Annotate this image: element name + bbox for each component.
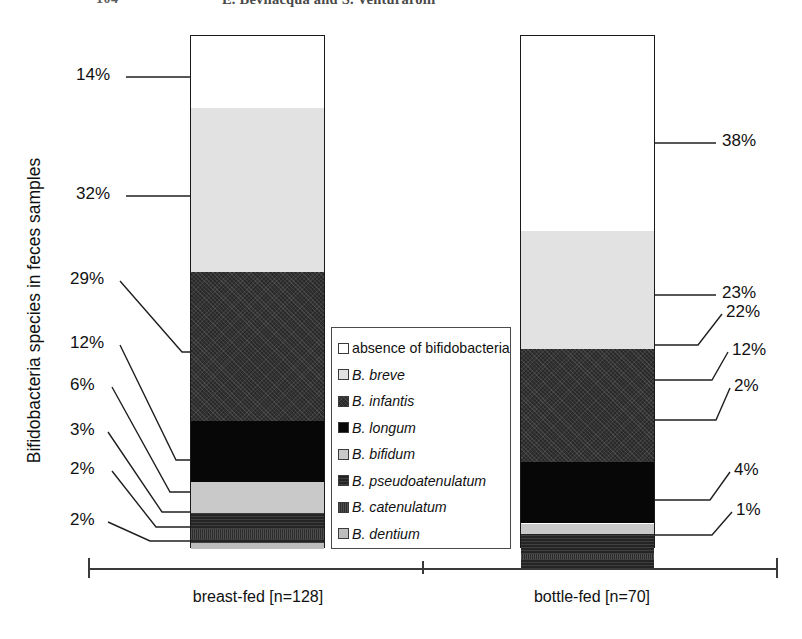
leader-right-catenulatum bbox=[655, 512, 732, 535]
legend-label-breve: B. breve bbox=[352, 367, 405, 383]
legend-item-pseudoatenulatum[interactable]: B. pseudoatenulatum bbox=[338, 468, 510, 495]
plot-area: breast-fed [n=128] bottle-fed [n=70] 14%… bbox=[0, 0, 802, 639]
leader-right-infantis bbox=[655, 314, 722, 345]
legend-item-dentium[interactable]: B. dentium bbox=[338, 521, 510, 548]
legend-item-infantis[interactable]: B. infantis bbox=[338, 388, 510, 415]
value-label-breast-bifidum: 6% bbox=[70, 375, 95, 395]
value-label-breast-breve: 32% bbox=[76, 184, 110, 204]
leader-left-pseudoatenulatum bbox=[108, 432, 190, 512]
value-label-bottle-catenulatum: 1% bbox=[736, 500, 761, 520]
leader-left-catenulatum bbox=[112, 471, 190, 527]
legend-item-absence[interactable]: absence of bifidobacteria bbox=[338, 335, 510, 362]
legend-swatch-breve-icon bbox=[338, 369, 349, 380]
leader-left-infantis bbox=[120, 281, 190, 352]
value-label-bottle-pseudoatenulatum: 4% bbox=[734, 460, 759, 480]
legend-swatch-longum-icon bbox=[338, 422, 349, 433]
value-label-bottle-bifidum: 2% bbox=[734, 376, 759, 396]
value-label-breast-longum: 12% bbox=[70, 333, 104, 353]
value-label-bottle-breve: 23% bbox=[722, 283, 756, 303]
legend-box: absence of bifidobacteria B. breve B. in… bbox=[331, 327, 511, 549]
legend-swatch-absence-icon bbox=[338, 343, 349, 354]
legend-label-pseudoatenulatum: B. pseudoatenulatum bbox=[352, 473, 486, 489]
leader-right-bifidum bbox=[655, 388, 730, 420]
leader-right-longum bbox=[655, 352, 728, 380]
value-label-breast-catenulatum: 2% bbox=[70, 459, 95, 479]
value-label-bottle-longum: 12% bbox=[732, 340, 766, 360]
legend-item-longum[interactable]: B. longum bbox=[338, 415, 510, 442]
legend-label-bifidum: B. bifidum bbox=[352, 446, 415, 462]
value-label-breast-absence: 14% bbox=[76, 65, 110, 85]
leader-right-pseudoatenulatum bbox=[655, 472, 730, 500]
leader-left-bifidum bbox=[112, 387, 190, 492]
legend-label-catenulatum: B. catenulatum bbox=[352, 499, 447, 515]
legend-swatch-catenulatum-icon bbox=[338, 502, 349, 513]
legend-swatch-infantis-icon bbox=[338, 396, 349, 407]
leader-left-dentium bbox=[108, 522, 190, 541]
legend-label-infantis: B. infantis bbox=[352, 393, 414, 409]
value-label-breast-dentium: 2% bbox=[70, 510, 95, 530]
value-label-bottle-infantis: 22% bbox=[726, 302, 760, 322]
legend-item-breve[interactable]: B. breve bbox=[338, 362, 510, 389]
legend-swatch-pseudoatenulatum-icon bbox=[338, 475, 349, 486]
value-label-breast-infantis: 29% bbox=[70, 269, 104, 289]
value-label-breast-pseudoatenulatum: 3% bbox=[70, 420, 95, 440]
legend-item-bifidum[interactable]: B. bifidum bbox=[338, 441, 510, 468]
legend-swatch-bifidum-icon bbox=[338, 449, 349, 460]
legend-label-longum: B. longum bbox=[352, 420, 416, 436]
legend-swatch-dentium-icon bbox=[338, 528, 349, 539]
legend-label-absence: absence of bifidobacteria bbox=[352, 340, 510, 356]
legend-label-dentium: B. dentium bbox=[352, 526, 420, 542]
value-label-bottle-absence: 38% bbox=[722, 131, 756, 151]
leader-left-longum bbox=[120, 345, 190, 460]
figure-root: 104 E. Bevilacqua and S. Venturarolli Bi… bbox=[0, 0, 802, 639]
legend-item-catenulatum[interactable]: B. catenulatum bbox=[338, 494, 510, 521]
